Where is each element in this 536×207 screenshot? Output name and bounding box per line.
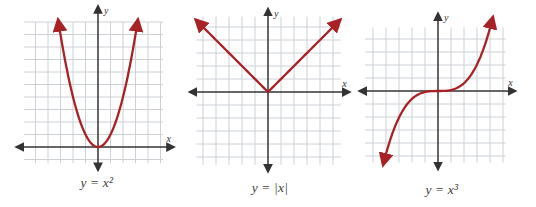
caption-absolute-value: y=|x|: [186, 180, 354, 196]
x-axis-label: x: [166, 133, 172, 144]
graph-panel-parabola: xy y=x²: [14, 2, 180, 191]
graph-panel-absolute-value: xy y=|x|: [186, 2, 354, 196]
caption-equals: =: [262, 180, 270, 195]
grid-lines: [24, 22, 163, 163]
graph-panel-cubic: xy y=x³: [356, 2, 528, 198]
caption-lhs: y: [252, 180, 258, 195]
parabola-plot: xy: [14, 2, 180, 178]
caption-cubic: y=x³: [356, 182, 528, 198]
caption-lhs: y: [426, 182, 432, 197]
caption-lhs: y: [81, 175, 87, 190]
graphs-strip: xy y=x² xy y=|x| xy y=x³: [0, 0, 536, 207]
absolute-value-plot: xy: [186, 2, 354, 178]
x-axis-label: x: [341, 78, 347, 89]
y-axis-label: y: [273, 8, 279, 19]
caption-rhs: x³: [448, 182, 459, 197]
caption-rhs: x²: [103, 175, 114, 190]
y-axis-label: y: [103, 5, 109, 16]
caption-equals: =: [91, 175, 99, 190]
caption-equals: =: [436, 182, 444, 197]
cubic-plot: xy: [356, 2, 528, 178]
caption-rhs: |x|: [274, 180, 288, 195]
y-axis-label: y: [443, 12, 449, 23]
x-axis-label: x: [507, 77, 513, 88]
caption-parabola: y=x²: [14, 175, 180, 191]
